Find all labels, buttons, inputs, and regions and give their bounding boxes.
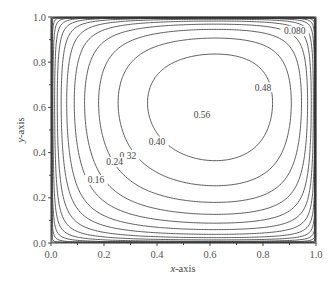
contour-line [74, 21, 311, 223]
contour-label: 0.080 [284, 26, 306, 36]
x-axis-ticks: 0.00.20.40.60.81.0 [44, 243, 322, 260]
contour-label: 0.16 [88, 175, 105, 185]
y-axis-ticks: 0.00.20.40.60.81.0 [33, 12, 51, 249]
x-tick-label: 0.0 [44, 249, 57, 260]
y-tick-label: 1.0 [33, 12, 46, 23]
contour-label: 0.56 [194, 110, 211, 120]
contour-label: 0.48 [255, 83, 272, 93]
contour-line [52, 17, 316, 242]
x-tick-label: 0.2 [97, 249, 110, 260]
y-tick-label: 0.4 [33, 147, 47, 158]
contour-lines [51, 17, 315, 243]
x-tick-label: 0.6 [203, 249, 216, 260]
y-tick-label: 0.8 [33, 57, 46, 68]
contour-line [51, 17, 315, 243]
contour-line [61, 18, 314, 234]
y-axis-title: y-axis [15, 117, 26, 143]
x-tick-label: 1.0 [309, 249, 322, 260]
x-tick-label: 0.4 [150, 249, 164, 260]
y-tick-label: 0.6 [33, 102, 46, 113]
y-tick-label: 0.2 [33, 192, 46, 203]
x-tick-label: 0.8 [256, 249, 269, 260]
plot-frame [51, 17, 316, 243]
contour-line [52, 18, 315, 243]
contour-line [67, 19, 314, 229]
contour-line [55, 18, 315, 240]
contour-chart: 0.0800.480.560.400.320.240.16 0.00.20.40… [0, 0, 333, 282]
contour-label: 0.24 [106, 157, 123, 167]
y-tick-label: 0.0 [33, 238, 46, 249]
x-axis-title: x-axis [169, 263, 195, 274]
contour-label: 0.40 [149, 137, 166, 147]
